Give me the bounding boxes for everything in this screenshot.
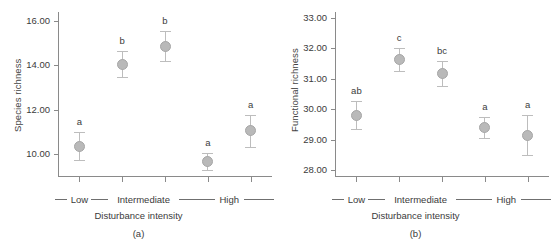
x-axis-group-rule — [456, 199, 491, 200]
error-bar-cap-lower — [74, 160, 85, 161]
x-axis-group-label: Intermediate — [114, 194, 173, 205]
x-axis-group-rule — [332, 199, 344, 200]
panel-caption: (b) — [277, 228, 554, 239]
error-bar-cap-lower — [245, 147, 256, 148]
y-axis-tick-mark — [54, 154, 58, 155]
x-axis-group-label-item: Low — [67, 192, 91, 206]
y-axis-tick-mark — [331, 79, 335, 80]
error-bar-cap-upper — [245, 115, 256, 116]
y-axis-tick-mark — [331, 18, 335, 19]
y-axis-label: Species richness — [12, 59, 23, 132]
x-axis-tick-mark — [528, 177, 529, 182]
figure-container: 16.0014.0012.0010.00Species richnessabba… — [0, 0, 554, 245]
data-point-marker — [202, 156, 213, 167]
error-bar-cap-lower — [522, 155, 533, 156]
significance-letter: a — [205, 137, 210, 148]
error-bar-cap-upper — [394, 48, 405, 49]
x-axis-label: Disturbance intensity — [0, 210, 277, 221]
y-axis-line — [58, 12, 59, 176]
x-axis-tick-mark — [251, 177, 252, 182]
data-point-marker — [74, 141, 85, 152]
x-axis-group-label-item: High — [492, 192, 521, 206]
x-axis-group-labels: LowIntermediateHigh — [0, 192, 277, 206]
y-axis-tick-mark — [331, 48, 335, 49]
error-bar-cap-upper — [202, 153, 213, 154]
y-axis-tick-label: 10.00 — [2, 148, 50, 159]
x-axis-group-label: Intermediate — [391, 194, 450, 205]
y-axis-tick-mark — [331, 109, 335, 110]
x-axis-group-label: Low — [345, 194, 368, 205]
x-axis-tick-mark — [122, 177, 123, 182]
error-bar-cap-upper — [74, 132, 85, 133]
significance-letter: bc — [437, 45, 447, 56]
error-bar-cap-lower — [351, 129, 362, 130]
y-axis-label: Functional richness — [289, 48, 300, 132]
x-axis-group-rule — [91, 199, 107, 200]
significance-letter: c — [397, 32, 402, 43]
significance-letter: a — [525, 99, 530, 110]
error-bar-cap-upper — [522, 115, 533, 116]
y-axis-tick-label: 33.00 — [279, 12, 327, 23]
error-bar-cap-upper — [437, 61, 448, 62]
x-axis-group-rule — [179, 199, 214, 200]
error-bar-cap-lower — [437, 86, 448, 87]
panel-b: 33.0032.0031.0030.0029.0028.00Functional… — [277, 0, 554, 245]
error-bar-cap-lower — [160, 61, 171, 62]
significance-letter: a — [248, 99, 253, 110]
y-axis-tick-label: 32.00 — [279, 42, 327, 53]
x-axis-group-label: Low — [68, 194, 91, 205]
y-axis-tick-mark — [54, 110, 58, 111]
x-axis-group-label: High — [216, 194, 242, 205]
x-axis-group-rule — [521, 199, 551, 200]
data-point-marker — [522, 130, 533, 141]
error-bar-cap-upper — [351, 101, 362, 102]
data-point-marker — [117, 59, 128, 70]
error-bar-cap-lower — [117, 77, 128, 78]
significance-letter: ab — [351, 85, 362, 96]
x-axis-tick-mark — [485, 177, 486, 182]
y-axis-tick-label: 12.00 — [2, 104, 50, 115]
x-axis-tick-mark — [442, 177, 443, 182]
x-axis-tick-mark — [399, 177, 400, 182]
x-axis-group-rule — [55, 199, 67, 200]
data-point-marker — [351, 110, 362, 121]
y-axis-tick-label: 14.00 — [2, 59, 50, 70]
y-axis-tick-label: 29.00 — [279, 134, 327, 145]
y-axis-tick-label: 31.00 — [279, 73, 327, 84]
x-axis-group-label-item: Intermediate — [385, 192, 457, 206]
y-axis-tick-mark — [331, 170, 335, 171]
significance-letter: a — [77, 116, 82, 127]
x-axis-group-rule — [244, 199, 274, 200]
data-point-marker — [160, 41, 171, 52]
x-axis-tick-mark — [79, 177, 80, 182]
x-axis-group-labels: LowIntermediateHigh — [277, 192, 554, 206]
data-point-marker — [479, 122, 490, 133]
error-bar-cap-upper — [117, 51, 128, 52]
significance-letter: b — [162, 15, 167, 26]
x-axis-group-label-item: High — [215, 192, 244, 206]
x-axis-group-label: High — [493, 194, 519, 205]
x-axis-label: Disturbance intensity — [277, 210, 554, 221]
y-axis-tick-label: 28.00 — [279, 164, 327, 175]
error-bar-cap-lower — [479, 138, 490, 139]
y-axis-tick-mark — [54, 21, 58, 22]
panel-a: 16.0014.0012.0010.00Species richnessabba… — [0, 0, 277, 245]
data-point-marker — [245, 125, 256, 136]
significance-letter: b — [120, 35, 125, 46]
x-axis-tick-mark — [208, 177, 209, 182]
x-axis-group-rule — [368, 199, 384, 200]
y-axis-tick-mark — [54, 65, 58, 66]
error-bar-cap-lower — [202, 170, 213, 171]
error-bar-cap-lower — [394, 71, 405, 72]
y-axis-tick-mark — [331, 140, 335, 141]
significance-letter: a — [482, 101, 487, 112]
data-point-marker — [437, 68, 448, 79]
x-axis-group-label-item: Intermediate — [108, 192, 180, 206]
error-bar-cap-upper — [160, 31, 171, 32]
error-bar-cap-upper — [479, 117, 490, 118]
x-axis-group-label-item: Low — [344, 192, 368, 206]
x-axis-tick-mark — [356, 177, 357, 182]
y-axis-line — [335, 12, 336, 176]
x-axis-tick-mark — [165, 177, 166, 182]
panel-caption: (a) — [0, 228, 277, 239]
